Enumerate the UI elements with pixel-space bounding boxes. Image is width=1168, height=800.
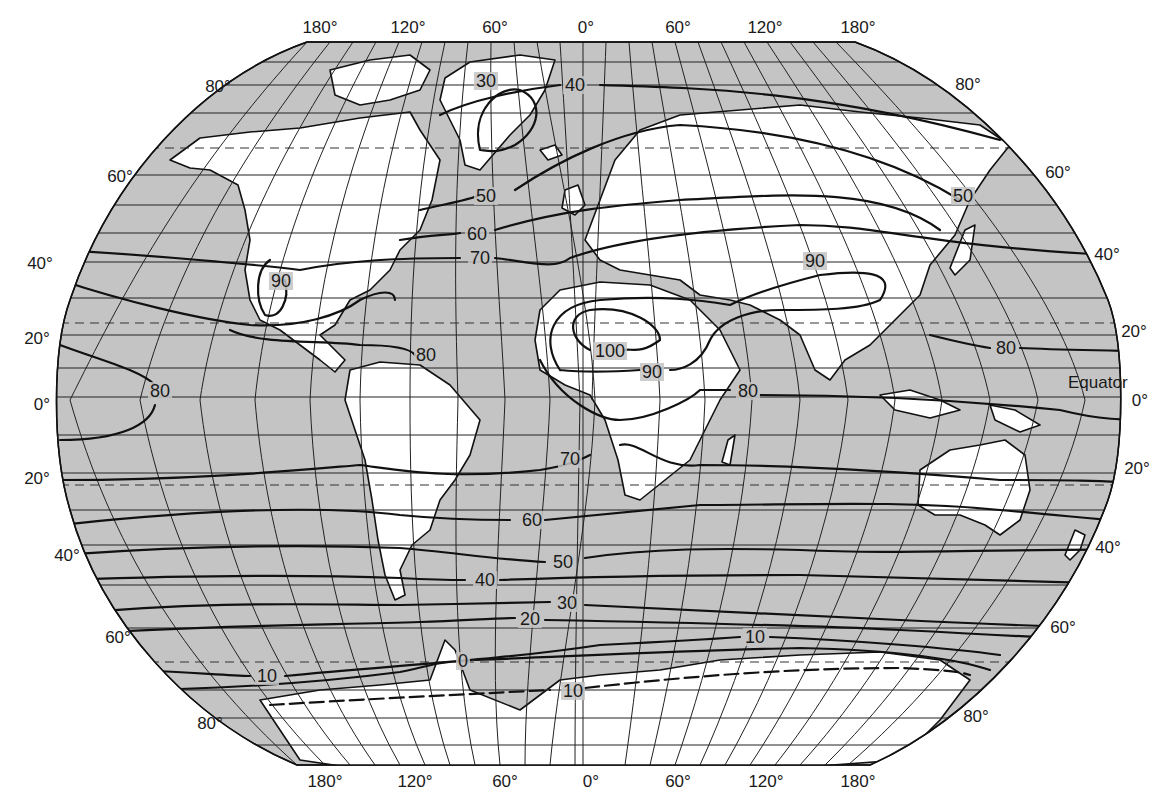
lon-label: 0° [583, 772, 599, 791]
isotherm-label: 70 [470, 248, 490, 268]
isotherm-label: 10 [563, 681, 583, 701]
lat-label: 60° [1050, 618, 1076, 637]
lat-label: 60° [1045, 163, 1071, 182]
isotherm-label: 100 [595, 341, 625, 361]
isotherm-label: 80 [738, 381, 758, 401]
isotherm-label: 20 [520, 609, 540, 629]
equator-label: Equator [1068, 373, 1128, 392]
isotherm-label: 40 [565, 75, 585, 95]
lat-label: 40° [1094, 245, 1120, 264]
isotherm-label: 80 [150, 381, 170, 401]
lon-label: 180° [840, 772, 875, 791]
lon-label: 120° [390, 18, 425, 37]
lon-label: 60° [482, 18, 508, 37]
isotherm-label: 40 [475, 570, 495, 590]
isotherm-label: 90 [271, 271, 291, 291]
lat-label: 80° [205, 77, 231, 96]
isotherm-label: 70 [560, 449, 580, 469]
lat-label: 20° [1124, 459, 1150, 478]
isotherm-label: 60 [522, 510, 542, 530]
isotherm-label: 50 [476, 186, 496, 206]
lon-label: 60° [665, 18, 691, 37]
isotherm-label: 90 [805, 251, 825, 271]
isotherm-label: 30 [476, 71, 496, 91]
lon-label: 60° [665, 772, 691, 791]
lon-label: 180° [302, 18, 337, 37]
world-isotherm-map: 40 30 50 60 70 90 80 80 100 90 80 90 50 … [0, 0, 1168, 800]
isotherm-label: 80 [996, 338, 1016, 358]
isotherm-label: 60 [467, 224, 487, 244]
isotherm-label: 10 [257, 666, 277, 686]
lon-label: 120° [748, 772, 783, 791]
isotherm-label: 50 [953, 186, 973, 206]
lat-label: 80° [197, 714, 223, 733]
longitude-labels-bottom: 180° 120° 60° 0° 60° 120° 180° [307, 772, 875, 791]
longitude-labels-top: 180° 120° 60° 0° 60° 120° 180° [302, 18, 875, 37]
lat-label: 60° [107, 167, 133, 186]
lon-label: 120° [397, 772, 432, 791]
lat-label: 80° [963, 707, 989, 726]
isotherm-label: 10 [745, 627, 765, 647]
lat-label: 40° [54, 546, 80, 565]
lat-label: 80° [955, 75, 981, 94]
lat-label: 40° [1095, 538, 1121, 557]
isotherm-label: 90 [642, 362, 662, 382]
lat-label: 60° [105, 628, 131, 647]
lat-label: 20° [24, 329, 50, 348]
lat-label: 0° [1132, 391, 1148, 410]
isotherm-label: 30 [557, 593, 577, 613]
isotherm-label: 50 [553, 552, 573, 572]
lon-label: 180° [307, 772, 342, 791]
lat-label: 40° [27, 254, 53, 273]
lon-label: 180° [840, 18, 875, 37]
lon-label: 120° [747, 18, 782, 37]
lon-label: 0° [578, 18, 594, 37]
isotherm-label: 80 [416, 345, 436, 365]
lat-label: 0° [34, 395, 50, 414]
isotherm-label: 0 [458, 651, 468, 671]
lon-label: 60° [492, 772, 518, 791]
lat-label: 20° [1121, 322, 1147, 341]
lat-label: 20° [24, 469, 50, 488]
